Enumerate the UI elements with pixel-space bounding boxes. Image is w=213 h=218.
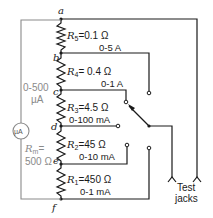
switch-arrow-icon: [128, 104, 135, 111]
r4-range: 0-1 A: [101, 79, 123, 89]
wire-switch-left-jack: [149, 126, 172, 178]
meter-range-label: 0-500: [23, 83, 49, 93]
r1-range: 0-1 mA: [80, 187, 111, 197]
r2-label: R2=45 Ω: [67, 140, 106, 151]
node-d-label: d: [51, 122, 57, 132]
node-b-label: b: [53, 53, 59, 63]
node-f-label: f: [52, 203, 56, 213]
resistor-r1: [57, 164, 65, 199]
r5-label: R5=0.1 Ω: [67, 31, 108, 42]
resistor-r5: [57, 19, 65, 53]
meter-resistance-label: Rm=: [25, 144, 44, 155]
meter-wire-top: [21, 20, 61, 123]
terminal-1ma: [147, 146, 151, 150]
circuit-diagram: a b c d e f R5=0.1 Ω 0-5 A R4= 0.4 Ω 0-1…: [0, 0, 213, 218]
r4-label: R4= 0.4 Ω: [67, 67, 111, 78]
node-a-label: a: [58, 6, 64, 16]
r3-range: 0-100 mA: [69, 115, 110, 125]
microammeter-icon: µA: [14, 128, 23, 135]
terminal-5a: [147, 91, 151, 95]
r2-range: 0-10 mA: [79, 152, 115, 162]
terminal-10ma: [125, 143, 129, 147]
terminal-1a: [124, 100, 128, 104]
node-c-label: c: [53, 87, 59, 97]
test-jacks-label-line1: Test: [177, 183, 195, 193]
r3-label: R3=4.5 Ω: [67, 103, 108, 114]
node-e-label: e: [53, 156, 59, 166]
terminal-100ma: [116, 124, 120, 128]
wire-c-1a: [61, 90, 126, 100]
meter-resistance-value: 500 Ω: [25, 157, 52, 167]
r1-label: R1=450 Ω: [67, 175, 111, 186]
test-jack-left: [168, 177, 176, 182]
r5-range: 0-5 A: [99, 43, 121, 53]
meter-range-unit: µA: [31, 95, 43, 105]
test-jacks-label-line2: jacks: [175, 194, 198, 204]
